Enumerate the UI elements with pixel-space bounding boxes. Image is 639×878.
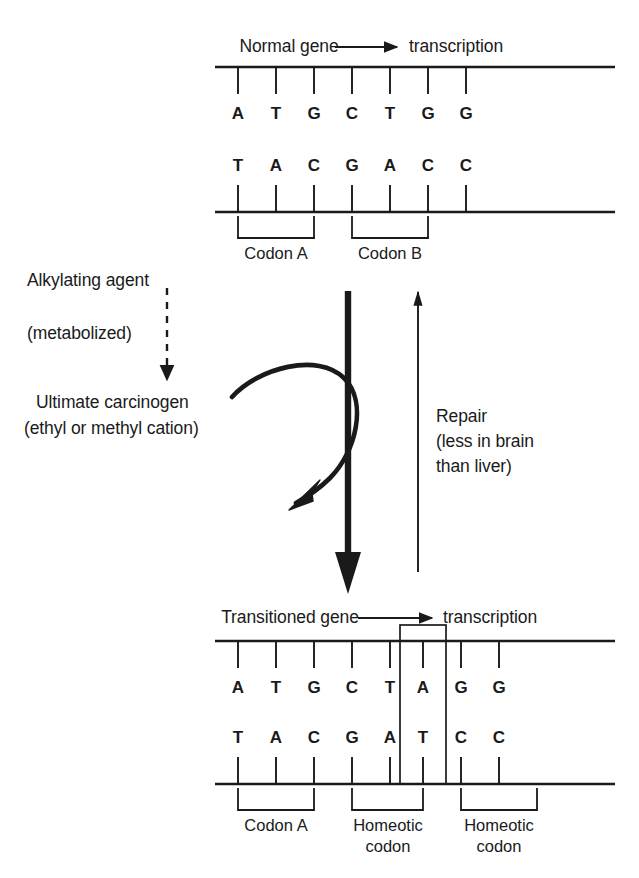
bottom-coding-base: T bbox=[385, 677, 395, 699]
repair-label-line2: (less in brain bbox=[436, 430, 534, 452]
bottom-template-strand-backbone bbox=[215, 757, 615, 784]
top-template-base: A bbox=[384, 155, 396, 177]
bottom-coding-base: T bbox=[271, 677, 281, 699]
bottom-template-base: A bbox=[270, 727, 282, 749]
repair-label-line3: than liver) bbox=[436, 455, 512, 477]
top-template-base: A bbox=[270, 155, 282, 177]
bottom-template-base: A bbox=[384, 727, 396, 749]
curved-attack-arrow bbox=[232, 365, 357, 510]
repair-label-line1: Repair bbox=[436, 405, 487, 427]
bottom-template-base: C bbox=[308, 727, 320, 749]
bottom-coding-base-mutated: A bbox=[417, 677, 429, 699]
bottom-template-base-mutated: T bbox=[418, 727, 428, 749]
bottom-codon-bracket-a bbox=[238, 788, 314, 810]
bottom-coding-base: G bbox=[492, 677, 505, 699]
alkylating-agent-label: Alkylating agent bbox=[27, 269, 149, 291]
top-coding-base: T bbox=[271, 103, 281, 125]
bottom-coding-base: A bbox=[232, 677, 244, 699]
top-template-base: C bbox=[460, 155, 472, 177]
top-transcription-label: transcription bbox=[409, 35, 503, 57]
metabolized-label: (metabolized) bbox=[27, 322, 132, 344]
bottom-template-base: C bbox=[455, 727, 467, 749]
bottom-coding-strand-backbone bbox=[215, 641, 615, 668]
top-coding-base: G bbox=[307, 103, 320, 125]
bottom-codon-label-a: Codon A bbox=[244, 815, 307, 836]
bottom-gene-label: Transitioned gene bbox=[221, 606, 359, 628]
top-gene-label: Normal gene bbox=[239, 35, 338, 57]
top-template-base: T bbox=[233, 155, 243, 177]
bottom-template-base: T bbox=[233, 727, 243, 749]
top-template-base: G bbox=[345, 155, 358, 177]
top-codon-bracket-a bbox=[238, 216, 314, 238]
top-template-strand-backbone bbox=[215, 185, 615, 212]
bottom-coding-base: G bbox=[454, 677, 467, 699]
bottom-coding-base: C bbox=[346, 677, 358, 699]
top-codon-label-a: Codon A bbox=[244, 243, 307, 264]
bottom-codon-bracket-homeotic-1 bbox=[352, 788, 423, 810]
bottom-template-base: C bbox=[493, 727, 505, 749]
top-codon-bracket-b bbox=[352, 216, 428, 238]
thick-transition-arrow bbox=[335, 291, 361, 594]
top-coding-base: T bbox=[385, 103, 395, 125]
bottom-codon-label-homeotic-1: Homeotic codon bbox=[353, 815, 423, 857]
ultimate-carcinogen-label: Ultimate carcinogen bbox=[36, 391, 189, 413]
bottom-coding-base: G bbox=[307, 677, 320, 699]
top-template-base: C bbox=[308, 155, 320, 177]
bottom-codon-label-homeotic-2: Homeotic codon bbox=[464, 815, 534, 857]
top-coding-strand-backbone bbox=[215, 67, 615, 94]
bottom-codon-bracket-homeotic-2 bbox=[461, 788, 537, 810]
top-coding-base: G bbox=[459, 103, 472, 125]
bottom-transcription-label: transcription bbox=[443, 606, 537, 628]
top-coding-base: G bbox=[421, 103, 434, 125]
bottom-template-base: G bbox=[345, 727, 358, 749]
top-template-base: C bbox=[422, 155, 434, 177]
carcinogen-detail-label: (ethyl or methyl cation) bbox=[24, 417, 199, 439]
diagram-canvas: Normal gene transcription A T G C T G G … bbox=[0, 0, 639, 878]
top-codon-label-b: Codon B bbox=[358, 243, 422, 264]
top-coding-base: A bbox=[232, 103, 244, 125]
top-coding-base: C bbox=[346, 103, 358, 125]
